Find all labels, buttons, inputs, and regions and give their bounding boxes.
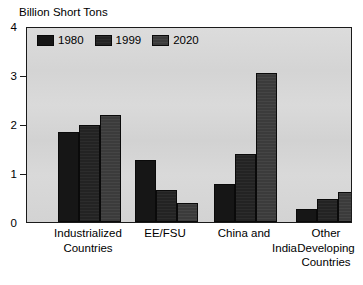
x-axis-label-line: Countries [273, 255, 363, 270]
y-tick-label-1: 1 [11, 168, 17, 180]
y-tick-label-0: 0 [11, 217, 17, 229]
y-tick-label-3: 3 [11, 70, 17, 82]
bar-1980-3 [296, 209, 317, 222]
x-axis-label-3: OtherDevelopingCountries [273, 226, 363, 270]
bar-1999-3 [317, 199, 338, 222]
bar-2020-1 [177, 203, 198, 222]
x-axis-label-line: Other [273, 226, 363, 241]
bars-layer [27, 28, 351, 222]
y-tick-label-4: 4 [11, 21, 17, 33]
bar-1980-2 [214, 184, 235, 222]
bar-group [296, 28, 353, 222]
bar-1999-0 [79, 125, 100, 223]
bar-1980-1 [135, 160, 156, 222]
y-axis-title: Billion Short Tons [19, 6, 108, 18]
bar-1999-2 [235, 154, 256, 222]
x-axis-labels: IndustrializedCountriesEE/FSUChina andIn… [26, 226, 352, 285]
y-axis-labels: 01234 [0, 0, 26, 250]
bar-2020-2 [256, 73, 277, 222]
y-tick-label-2: 2 [11, 119, 17, 131]
bar-group [214, 28, 277, 222]
bar-1999-1 [156, 190, 177, 222]
x-axis-label-line: Developing [273, 241, 363, 256]
bar-group [135, 28, 198, 222]
bar-2020-3 [338, 192, 353, 222]
bar-2020-0 [100, 115, 121, 222]
plot-area: 1980 1999 2020 [26, 27, 352, 223]
x-axis-label-line: Countries [35, 241, 141, 256]
bar-group [58, 28, 121, 222]
bar-1980-0 [58, 132, 79, 222]
